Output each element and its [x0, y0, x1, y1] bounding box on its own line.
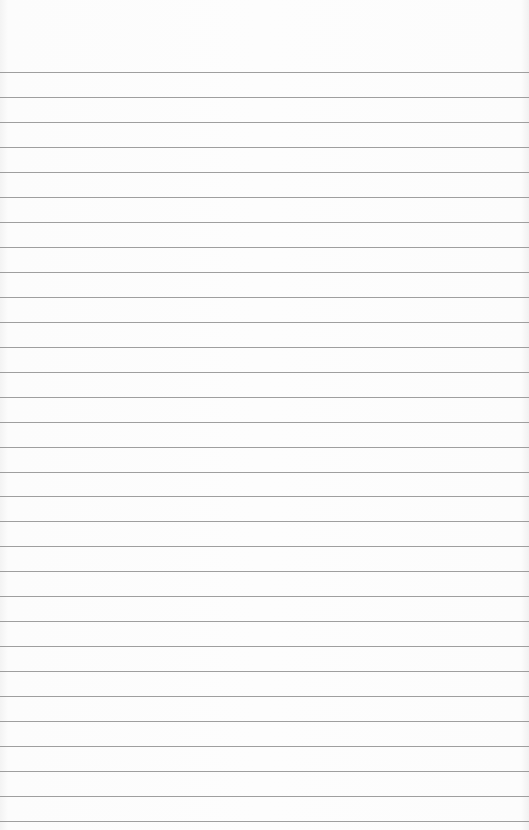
- ruled-line: [0, 646, 529, 647]
- ruled-line: [0, 821, 529, 822]
- ruled-line: [0, 147, 529, 148]
- ruled-line: [0, 671, 529, 672]
- ruled-line: [0, 97, 529, 98]
- ruled-line: [0, 372, 529, 373]
- ruled-line: [0, 72, 529, 73]
- ruled-line: [0, 197, 529, 198]
- ruled-line: [0, 546, 529, 547]
- ruled-line: [0, 721, 529, 722]
- lined-paper-sheet: [0, 0, 529, 830]
- ruled-line: [0, 746, 529, 747]
- ruled-line: [0, 596, 529, 597]
- ruled-line: [0, 496, 529, 497]
- ruled-line: [0, 172, 529, 173]
- ruled-line: [0, 272, 529, 273]
- ruled-line: [0, 696, 529, 697]
- ruled-line: [0, 447, 529, 448]
- ruled-line: [0, 122, 529, 123]
- ruled-line: [0, 397, 529, 398]
- ruled-line: [0, 521, 529, 522]
- ruled-line: [0, 472, 529, 473]
- ruled-line: [0, 247, 529, 248]
- ruled-line: [0, 297, 529, 298]
- ruled-line: [0, 571, 529, 572]
- ruled-line: [0, 347, 529, 348]
- ruled-line: [0, 771, 529, 772]
- ruled-line: [0, 621, 529, 622]
- ruled-line: [0, 222, 529, 223]
- ruled-line: [0, 322, 529, 323]
- ruled-line: [0, 796, 529, 797]
- ruled-line: [0, 422, 529, 423]
